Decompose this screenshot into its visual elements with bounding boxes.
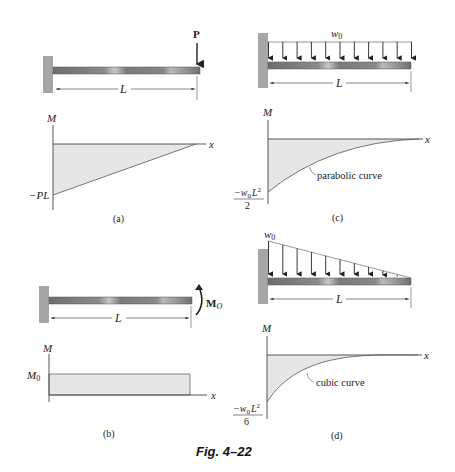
x-axis-label: x [423, 349, 429, 361]
panel-label: (d) [331, 430, 343, 442]
x-axis-label: x [424, 133, 430, 145]
couple-arrowhead-icon [195, 284, 203, 290]
x-axis-label: x [210, 389, 216, 401]
moment-diagram-c: parabolic curve M x −w0L2 2 (c) [234, 106, 430, 224]
load-label: w0 [264, 228, 275, 242]
load-label: P [193, 28, 200, 40]
m-axis-label: M [42, 342, 53, 354]
value-label: M0 [26, 369, 40, 383]
load-top-line [268, 241, 411, 278]
panel-label: (a) [113, 213, 124, 225]
uniform-load-arrows-icon [269, 42, 412, 58]
length-label: L [335, 76, 343, 90]
beam-b: MO L [39, 284, 222, 328]
length-label: L [119, 82, 127, 96]
curve-label: cubic curve [316, 377, 365, 388]
value-label-sub: 0 [36, 374, 40, 383]
cantilever-beam [53, 67, 200, 74]
num-w: −w [233, 403, 247, 414]
value-label: −w0L2 6 [233, 402, 263, 427]
beam-a: P L [43, 28, 200, 100]
cantilever-beam [49, 297, 192, 304]
num-sup: 2 [257, 186, 261, 194]
length-label: L [335, 292, 343, 306]
curve-leader [307, 373, 314, 382]
moment-area [268, 139, 419, 192]
curve-leader [309, 167, 316, 175]
panel-b: MO L M x M0 (b) [26, 284, 222, 440]
m-axis-label: M [262, 106, 273, 118]
fixed-wall [258, 33, 268, 88]
fixed-wall [258, 249, 268, 304]
panel-label: (b) [103, 428, 115, 440]
num-w: −w [234, 187, 248, 198]
value-label: −PL [29, 189, 49, 201]
cantilever-beam [268, 62, 411, 69]
moment-diagram-d: cubic curve M x −w0L2 6 (d) [233, 322, 429, 442]
cantilever-beam [268, 278, 411, 285]
length-label: L [114, 311, 122, 325]
value-label: −w0L2 2 [234, 186, 264, 211]
value-numerator: −w0L2 [234, 186, 261, 200]
load-label: w0 [331, 27, 342, 41]
load-label-sub: O [216, 302, 222, 311]
load-label-sub: 0 [338, 32, 342, 41]
m-axis-label: M [261, 322, 272, 334]
load-label-main: M [206, 297, 217, 309]
panel-a: P L M x −PL (a) [29, 28, 214, 225]
value-denominator: 2 [245, 200, 250, 211]
value-numerator: −w0L2 [233, 402, 260, 416]
couple-moment-arrow-icon [196, 287, 202, 315]
load-label: MO [206, 297, 222, 311]
m-axis-label: M [46, 112, 57, 124]
moment-area [49, 374, 190, 395]
fixed-wall [43, 56, 53, 93]
beam-d: w0 L [258, 228, 411, 308]
panel-d: w0 L cubic curve M x −w0L2 6 (d) [233, 228, 429, 442]
moment-diagram-b: M x M0 (b) [26, 342, 216, 440]
panel-c: w0 L parabolic curve M x −w0L2 2 (c) [234, 27, 430, 224]
num-sup: 2 [256, 402, 260, 410]
moment-diagram-a: M x −PL (a) [29, 112, 214, 225]
beam-c: w0 L [258, 27, 412, 92]
panel-label: (c) [332, 212, 343, 224]
load-label-sub: 0 [271, 233, 275, 242]
x-axis-label: x [208, 138, 214, 150]
value-denominator: 6 [244, 416, 249, 427]
figure-caption: Fig. 4–22 [196, 444, 252, 459]
fixed-wall [39, 286, 49, 323]
curve-label: parabolic curve [317, 170, 382, 181]
figure-canvas: P L M x −PL (a) MO L [0, 0, 455, 472]
